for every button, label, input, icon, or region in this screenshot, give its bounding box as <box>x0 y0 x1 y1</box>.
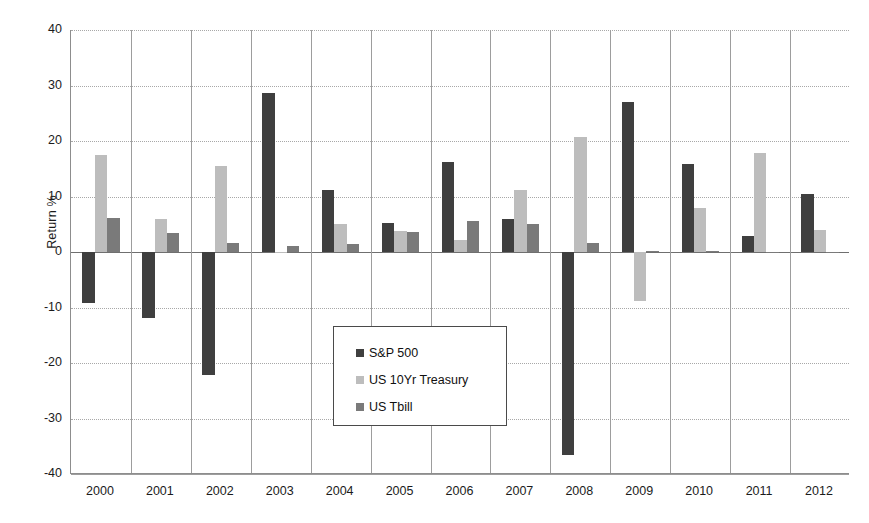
bar-2001-us-10yr-treasury <box>155 219 167 252</box>
bar-2009-s-p-500 <box>622 102 634 252</box>
bar-2006-us-10yr-treasury <box>454 240 466 252</box>
bar-2010-us-tbill <box>706 251 718 252</box>
bar-2008-s-p-500 <box>562 252 574 455</box>
y-tick-10: 10 <box>22 189 62 203</box>
bar-2003-us-10yr-treasury <box>275 252 287 253</box>
y-tick-0: 0 <box>22 244 62 258</box>
gridline--10 <box>71 308 849 309</box>
gridline-10 <box>71 197 849 198</box>
x-tick-2009: 2009 <box>609 484 669 498</box>
bar-2007-us-10yr-treasury <box>514 190 526 252</box>
category-separator <box>550 30 551 473</box>
bar-2005-us-10yr-treasury <box>394 231 406 252</box>
bar-2002-us-tbill <box>227 243 239 252</box>
category-separator <box>311 30 312 473</box>
gridline--40 <box>71 474 849 475</box>
legend-item-label: US 10Yr Treasury <box>369 373 468 387</box>
x-tick-2007: 2007 <box>489 484 549 498</box>
category-separator <box>790 30 791 473</box>
bar-2010-s-p-500 <box>682 164 694 252</box>
chart-legend: S&P 500US 10Yr TreasuryUS Tbill <box>333 326 507 426</box>
legend-item-label: US Tbill <box>369 400 413 414</box>
legend-item-us-tbill: US Tbill <box>356 393 506 420</box>
y-tick-20: 20 <box>22 133 62 147</box>
x-tick-2002: 2002 <box>190 484 250 498</box>
x-tick-2004: 2004 <box>310 484 370 498</box>
bar-2007-us-tbill <box>527 224 539 252</box>
legend-swatch-icon <box>356 349 364 357</box>
bar-2012-us-10yr-treasury <box>814 230 826 252</box>
bar-2009-us-tbill <box>646 251 658 252</box>
bar-2000-us-10yr-treasury <box>95 155 107 252</box>
legend-swatch-icon <box>356 376 364 384</box>
bar-2011-us-10yr-treasury <box>754 153 766 252</box>
returns-bar-chart: Return % 403020100-10-20-30-40 200020012… <box>0 0 869 523</box>
bar-2011-s-p-500 <box>742 236 754 252</box>
category-separator <box>251 30 252 473</box>
legend-item-s-p-500: S&P 500 <box>356 339 506 366</box>
x-tick-2001: 2001 <box>130 484 190 498</box>
x-tick-2011: 2011 <box>729 484 789 498</box>
category-separator <box>730 30 731 473</box>
x-tick-2010: 2010 <box>669 484 729 498</box>
y-tick--40: -40 <box>22 466 62 480</box>
bar-2011-us-tbill <box>766 252 778 253</box>
gridline-40 <box>71 30 849 31</box>
bar-2008-us-tbill <box>587 243 599 252</box>
bar-2007-s-p-500 <box>502 219 514 252</box>
bar-2000-s-p-500 <box>82 252 94 303</box>
bar-2003-us-tbill <box>287 246 299 252</box>
y-tick--10: -10 <box>22 300 62 314</box>
bar-2002-us-10yr-treasury <box>215 166 227 252</box>
bar-2003-s-p-500 <box>262 93 274 252</box>
y-tick-30: 30 <box>22 78 62 92</box>
bar-2008-us-10yr-treasury <box>574 137 586 252</box>
bar-2004-us-tbill <box>347 244 359 252</box>
gridline-20 <box>71 141 849 142</box>
bar-2005-us-tbill <box>407 232 419 252</box>
x-tick-2003: 2003 <box>250 484 310 498</box>
category-separator <box>191 30 192 473</box>
legend-item-label: S&P 500 <box>369 346 418 360</box>
x-tick-2006: 2006 <box>430 484 490 498</box>
x-tick-2000: 2000 <box>70 484 130 498</box>
y-axis-label: Return % <box>45 162 59 282</box>
bar-2000-us-tbill <box>107 218 119 252</box>
y-tick--20: -20 <box>22 355 62 369</box>
bar-2006-us-tbill <box>467 221 479 252</box>
bar-2010-us-10yr-treasury <box>694 208 706 252</box>
y-tick--30: -30 <box>22 411 62 425</box>
gridline-0 <box>71 252 849 253</box>
bar-2004-us-10yr-treasury <box>334 224 346 252</box>
legend-item-us-10yr-treasury: US 10Yr Treasury <box>356 366 506 393</box>
x-tick-2012: 2012 <box>789 484 849 498</box>
bar-2006-s-p-500 <box>442 162 454 252</box>
bar-2012-us-tbill <box>826 252 838 253</box>
gridline-30 <box>71 86 849 87</box>
x-tick-2008: 2008 <box>549 484 609 498</box>
x-tick-2005: 2005 <box>370 484 430 498</box>
bar-2001-s-p-500 <box>142 252 154 318</box>
bar-2004-s-p-500 <box>322 190 334 252</box>
bar-2005-s-p-500 <box>382 223 394 252</box>
legend-swatch-icon <box>356 403 364 411</box>
category-separator <box>670 30 671 473</box>
y-tick-40: 40 <box>22 22 62 36</box>
category-separator <box>131 30 132 473</box>
bar-2012-s-p-500 <box>801 194 813 252</box>
bar-2002-s-p-500 <box>202 252 214 375</box>
bar-2001-us-tbill <box>167 233 179 252</box>
bar-2009-us-10yr-treasury <box>634 252 646 301</box>
category-separator <box>610 30 611 473</box>
